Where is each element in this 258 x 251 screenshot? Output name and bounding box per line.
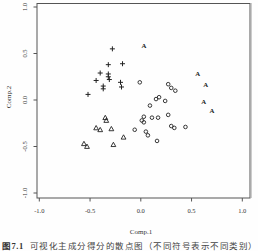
figure-caption: 图7.1可视化主成分得分的散点图（不同符号表示不同类别） bbox=[2, 241, 256, 251]
data-point-triangle bbox=[104, 118, 109, 122]
data-point-circle bbox=[142, 115, 146, 119]
data-point-circle bbox=[166, 82, 170, 86]
data-point-circle bbox=[155, 139, 159, 143]
plot-box bbox=[37, 4, 250, 199]
data-point-circle bbox=[133, 128, 137, 132]
data-point-triangle bbox=[111, 142, 116, 146]
figure-caption-number: 图7.1 bbox=[2, 241, 24, 251]
data-point-letter-A: A bbox=[201, 98, 206, 105]
data-point-triangle bbox=[98, 127, 103, 131]
x-axis-ticks: -1.0-0.50.00.51.0 bbox=[34, 198, 246, 214]
data-point-triangle bbox=[85, 144, 90, 148]
data-points: AAAAA bbox=[82, 42, 215, 148]
x-tick-label: 1.0 bbox=[238, 207, 246, 214]
data-point-circle bbox=[156, 116, 160, 120]
data-point-circle bbox=[146, 134, 150, 138]
x-tick-label: 0.5 bbox=[187, 207, 195, 214]
y-axis-ticks: -1.0-0.50.00.51.0 bbox=[21, 3, 37, 198]
x-tick-label: 0.0 bbox=[137, 207, 145, 214]
figure-caption-text: 可视化主成分得分的散点图（不同符号表示不同类别） bbox=[30, 241, 258, 251]
data-point-circle bbox=[166, 113, 170, 117]
x-tick-label: -1.0 bbox=[34, 207, 44, 214]
data-point-circle bbox=[169, 86, 173, 90]
data-point-triangle bbox=[82, 141, 87, 145]
data-point-letter-A: A bbox=[195, 70, 200, 77]
data-point-circle bbox=[163, 99, 167, 103]
data-point-circle bbox=[184, 125, 188, 129]
x-axis-title: Comp.1 bbox=[130, 228, 153, 236]
data-point-letter-A: A bbox=[141, 42, 146, 49]
data-point-circle bbox=[150, 116, 154, 120]
data-point-triangle bbox=[121, 135, 126, 139]
data-point-triangle bbox=[94, 126, 99, 130]
data-point-triangle bbox=[109, 126, 114, 130]
data-point-circle bbox=[138, 81, 142, 85]
x-tick-label: -0.5 bbox=[85, 207, 95, 214]
data-point-circle bbox=[148, 104, 152, 108]
y-tick-label: -1.0 bbox=[21, 188, 28, 198]
y-tick-label: -0.5 bbox=[21, 141, 28, 151]
y-tick-label: 1.0 bbox=[21, 3, 28, 11]
data-point-circle bbox=[174, 89, 178, 93]
y-tick-label: 0.5 bbox=[21, 49, 28, 57]
data-point-circle bbox=[172, 126, 176, 130]
data-point-letter-A: A bbox=[209, 107, 214, 114]
y-axis-title: Comp.2 bbox=[5, 85, 13, 108]
data-point-letter-A: A bbox=[203, 81, 208, 88]
data-point-circle bbox=[154, 97, 158, 101]
data-point-circle bbox=[144, 130, 148, 134]
y-tick-label: 0.0 bbox=[21, 96, 28, 104]
